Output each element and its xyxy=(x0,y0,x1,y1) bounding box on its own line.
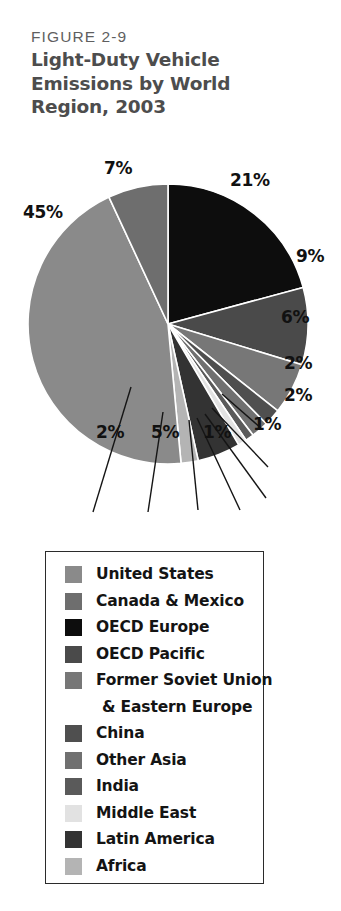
legend-item[interactable]: Other Asia xyxy=(46,750,263,777)
legend-item-label: Africa xyxy=(96,856,146,877)
legend-item-label: Middle East xyxy=(96,803,196,824)
legend-item[interactable]: Former Soviet Union xyxy=(46,670,263,697)
legend-swatch-icon xyxy=(65,752,82,769)
legend-item[interactable]: China xyxy=(46,723,263,750)
legend-item-label: OECD Europe xyxy=(96,617,209,638)
legend-item-label: Other Asia xyxy=(96,750,187,771)
figure-title-block: FIGURE 2-9 Light-Duty Vehicle Emissions … xyxy=(31,27,321,119)
legend-swatch-icon xyxy=(65,646,82,663)
legend-swatch-icon xyxy=(65,831,82,848)
legend-item-label: Former Soviet Union xyxy=(96,670,272,691)
legend-swatch-icon xyxy=(65,566,82,583)
pie-label-middle-east: 1% xyxy=(203,422,231,442)
pie-label-china: 2% xyxy=(284,353,312,373)
legend-item[interactable]: Africa xyxy=(46,856,263,883)
legend-item[interactable]: & Eastern Europe xyxy=(46,697,263,724)
pie-label-latin-america: 5% xyxy=(151,422,179,442)
legend-item[interactable]: India xyxy=(46,776,263,803)
legend-item-label: India xyxy=(96,776,139,797)
pie-chart: 21% 9% 6% 2% 2% 1% 1% 5% 2% 45% 7% xyxy=(0,140,341,540)
pie-label-other-asia: 2% xyxy=(284,385,312,405)
legend-item[interactable]: Middle East xyxy=(46,803,263,830)
legend-item-label: China xyxy=(96,723,144,744)
legend-item[interactable]: OECD Pacific xyxy=(46,644,263,671)
pie-label-africa: 2% xyxy=(96,422,124,442)
legend-item[interactable]: OECD Europe xyxy=(46,617,263,644)
pie-chart-svg xyxy=(0,140,341,540)
legend-item[interactable]: United States xyxy=(46,564,263,591)
legend-swatch-icon xyxy=(65,725,82,742)
figure-number: FIGURE 2-9 xyxy=(31,27,321,46)
legend: United StatesCanada & MexicoOECD EuropeO… xyxy=(45,551,264,884)
pie-label-oecd-europe: 21% xyxy=(230,170,270,190)
legend-item-label: & Eastern Europe xyxy=(96,697,252,718)
pie-label-fsu-eastern-europe: 6% xyxy=(281,307,309,327)
legend-swatch-icon xyxy=(65,858,82,875)
legend-item-label: Latin America xyxy=(96,829,215,850)
legend-item-label: OECD Pacific xyxy=(96,644,205,665)
legend-swatch-icon xyxy=(65,778,82,795)
legend-swatch-icon xyxy=(65,593,82,610)
legend-item[interactable]: Latin America xyxy=(46,829,263,856)
pie-label-oecd-pacific: 9% xyxy=(296,246,324,266)
legend-item-label: United States xyxy=(96,564,214,585)
pie-label-india: 1% xyxy=(253,414,281,434)
pie-label-united-states: 45% xyxy=(23,202,63,222)
page-title: Light-Duty Vehicle Emissions by World Re… xyxy=(31,48,246,119)
legend-item[interactable]: Canada & Mexico xyxy=(46,591,263,618)
legend-item-label: Canada & Mexico xyxy=(96,591,244,612)
legend-swatch-icon xyxy=(65,672,82,689)
legend-swatch-icon xyxy=(65,805,82,822)
legend-swatch-icon xyxy=(65,619,82,636)
pie-label-canada-mexico: 7% xyxy=(104,158,132,178)
